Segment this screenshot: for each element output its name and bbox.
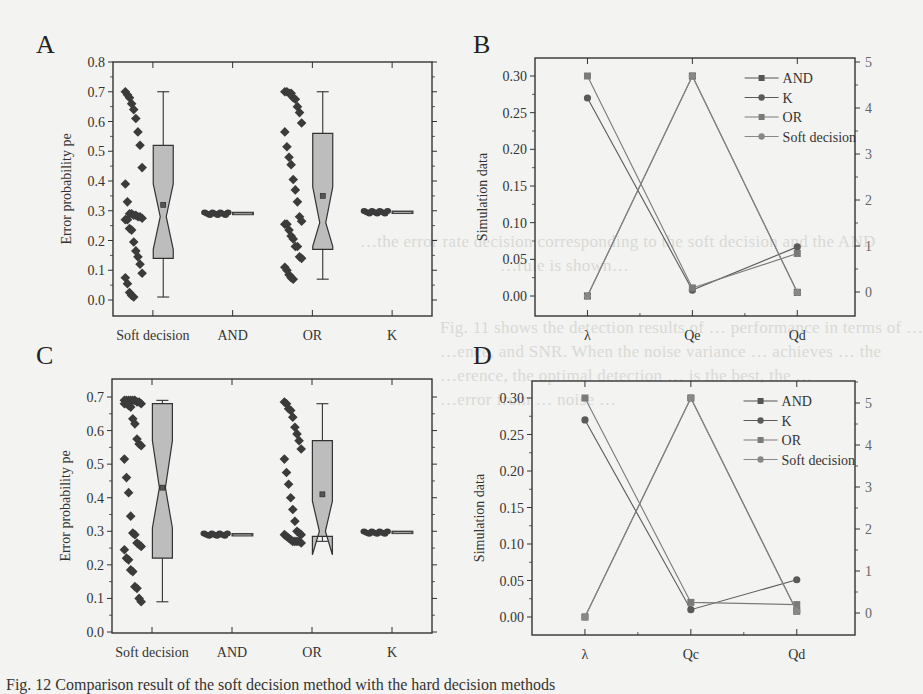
box-plot-c: 0.00.10.20.30.40.50.60.7Error probabilit… — [58, 379, 437, 660]
legend-marker — [758, 133, 764, 139]
x-tick-label: OR — [303, 328, 323, 343]
y-tick-label: 0.05 — [503, 252, 528, 267]
series-marker — [584, 94, 591, 101]
y2-tick-label: 1 — [865, 239, 872, 254]
y2-tick-label: 3 — [865, 147, 872, 162]
y-tick-label: 0.30 — [500, 391, 525, 406]
data-point — [120, 454, 130, 464]
y2-tick-label: 5 — [865, 55, 872, 70]
data-point — [282, 468, 292, 478]
series-marker — [584, 292, 591, 299]
legend-marker — [759, 114, 765, 120]
legend-label: Soft decision — [783, 130, 857, 145]
data-point — [133, 127, 143, 137]
plot-frame — [535, 58, 855, 316]
line-plot-b: 0.000.050.100.150.200.250.30012345Simula… — [475, 55, 872, 343]
data-point — [297, 118, 307, 128]
mean-marker — [161, 202, 166, 207]
series-marker — [687, 606, 694, 613]
data-point — [296, 444, 306, 454]
y2-tick-label: 2 — [865, 522, 872, 537]
data-point — [131, 114, 141, 124]
y-tick-label: 0.5 — [88, 144, 106, 159]
y-tick-label: 0.20 — [500, 464, 525, 479]
data-point — [137, 268, 147, 278]
y-tick-label: 0.2 — [88, 234, 106, 249]
x-tick-label: Qd — [789, 328, 806, 343]
y-tick-label: 0.7 — [88, 85, 106, 100]
data-point — [290, 516, 300, 526]
y-tick-label: 0.05 — [500, 574, 525, 589]
series-line — [585, 398, 797, 617]
series-marker — [794, 289, 801, 296]
data-point — [293, 197, 303, 207]
series-marker — [581, 613, 588, 620]
data-point — [284, 152, 294, 162]
data-point — [286, 493, 296, 503]
data-point — [135, 259, 145, 269]
box-body — [152, 404, 172, 558]
y-tick-label: 0.15 — [500, 501, 525, 516]
y2-tick-label: 1 — [865, 564, 872, 579]
y-tick-label: 0.30 — [503, 69, 528, 84]
y2-tick-label: 3 — [865, 480, 872, 495]
data-point — [120, 545, 130, 555]
legend-marker — [758, 398, 764, 404]
series-line — [587, 98, 797, 290]
x-tick-label: K — [387, 645, 397, 660]
legend-marker — [758, 94, 764, 100]
y-tick-label: 0.2 — [87, 558, 105, 573]
y-tick-label: 0.1 — [87, 591, 105, 606]
box-plot-a: 0.00.10.20.30.40.50.60.70.8Error probabi… — [59, 55, 437, 343]
data-point — [282, 142, 292, 152]
series-marker — [793, 608, 800, 615]
y2-tick-label: 4 — [865, 438, 872, 453]
y2-tick-label: 0 — [865, 606, 872, 621]
data-point — [286, 160, 296, 170]
data-point — [291, 185, 301, 195]
y2-tick-label: 2 — [865, 193, 872, 208]
y-axis-title: Error probability pe — [58, 450, 73, 561]
data-point — [288, 175, 298, 185]
legend-marker — [757, 456, 763, 462]
y-tick-label: 0.0 — [87, 625, 105, 640]
mean-marker — [320, 492, 325, 497]
data-point — [384, 208, 391, 214]
legend-label: K — [782, 414, 792, 429]
x-tick-label: AND — [217, 645, 247, 660]
box-body — [313, 133, 333, 249]
series-line — [585, 398, 797, 617]
x-tick-label: OR — [302, 645, 322, 660]
x-tick-label: AND — [217, 328, 247, 343]
y-tick-label: 0.25 — [503, 106, 528, 121]
y-axis-title: Error probability pe — [59, 133, 74, 244]
series-marker — [794, 243, 801, 250]
x-tick-label: K — [387, 328, 397, 343]
data-point — [225, 210, 232, 216]
mean-marker — [320, 193, 325, 198]
y-tick-label: 0.4 — [87, 491, 105, 506]
x-tick-label: Qc — [683, 647, 699, 662]
data-point — [126, 511, 136, 521]
legend-label: AND — [782, 394, 812, 409]
x-tick-label: Soft decision — [115, 645, 189, 660]
legend-marker — [758, 437, 764, 443]
y-tick-label: 0.1 — [88, 263, 106, 278]
y-tick-label: 0.00 — [500, 610, 525, 625]
series-marker — [689, 284, 696, 291]
y-tick-label: 0.20 — [503, 142, 528, 157]
y-tick-label: 0.5 — [87, 457, 105, 472]
series-marker — [689, 72, 696, 79]
legend-label: Soft decision — [782, 453, 856, 468]
legend-label: OR — [783, 110, 803, 125]
data-point — [384, 528, 391, 534]
y2-tick-label: 5 — [865, 396, 872, 411]
series-marker — [687, 394, 694, 401]
series-marker — [687, 599, 694, 606]
y-tick-label: 0.10 — [500, 537, 525, 552]
series-line — [587, 76, 797, 296]
y-tick-label: 0.15 — [503, 179, 528, 194]
x-tick-label: Qe — [684, 328, 700, 343]
series-marker — [581, 395, 588, 402]
data-point — [129, 237, 139, 247]
